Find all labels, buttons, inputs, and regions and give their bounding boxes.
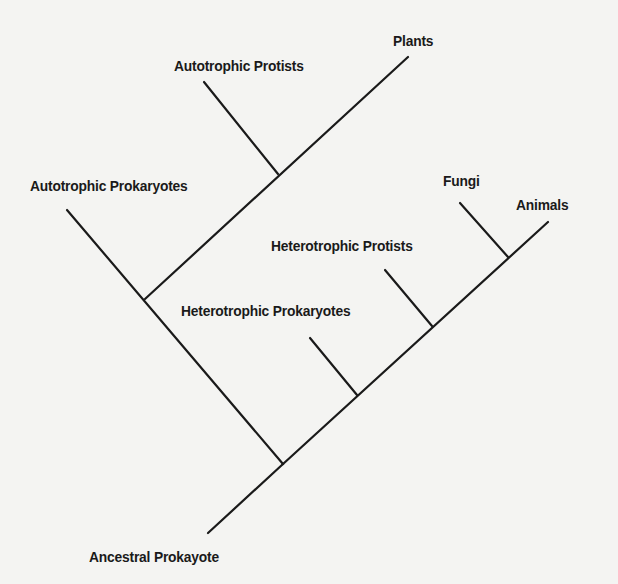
label-heterotrophic-protists: Heterotrophic Protists xyxy=(271,237,413,254)
cladogram: Plants Autotrophic Protists Autotrophic … xyxy=(0,0,618,584)
label-heterotrophic-prokaryotes: Heterotrophic Prokaryotes xyxy=(181,302,350,319)
label-autotrophic-prokaryotes: Autotrophic Prokaryotes xyxy=(30,177,188,194)
branch-root xyxy=(208,464,283,533)
branch-animals xyxy=(283,222,548,464)
branch-autotrophic-protists xyxy=(204,82,278,174)
label-ancestral-prokaryote: Ancestral Prokayote xyxy=(89,548,219,565)
label-animals: Animals xyxy=(516,196,568,213)
branch-heterotrophic-prokaryotes xyxy=(310,338,357,395)
branch-fungi xyxy=(460,203,508,257)
branch-autotrophic-prokaryotes xyxy=(67,210,283,464)
cladogram-lines xyxy=(0,0,618,584)
label-autotrophic-protists: Autotrophic Protists xyxy=(174,57,304,74)
label-plants: Plants xyxy=(393,32,433,49)
label-fungi: Fungi xyxy=(443,172,480,189)
branch-heterotrophic-protists xyxy=(385,270,432,326)
